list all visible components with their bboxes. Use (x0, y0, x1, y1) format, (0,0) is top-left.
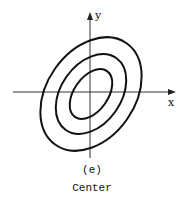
y-axis-label: y (95, 9, 101, 22)
x-axis-label: x (168, 96, 174, 109)
outer-trajectory (19, 18, 162, 170)
x-axis-arrow-icon (168, 89, 176, 95)
figure-letter: (e) (0, 164, 184, 176)
middle-trajectory (41, 41, 141, 147)
figure-title: Center (0, 182, 184, 194)
axes (13, 12, 176, 158)
trajectories (19, 18, 162, 170)
y-axis-arrow-icon (87, 12, 93, 20)
